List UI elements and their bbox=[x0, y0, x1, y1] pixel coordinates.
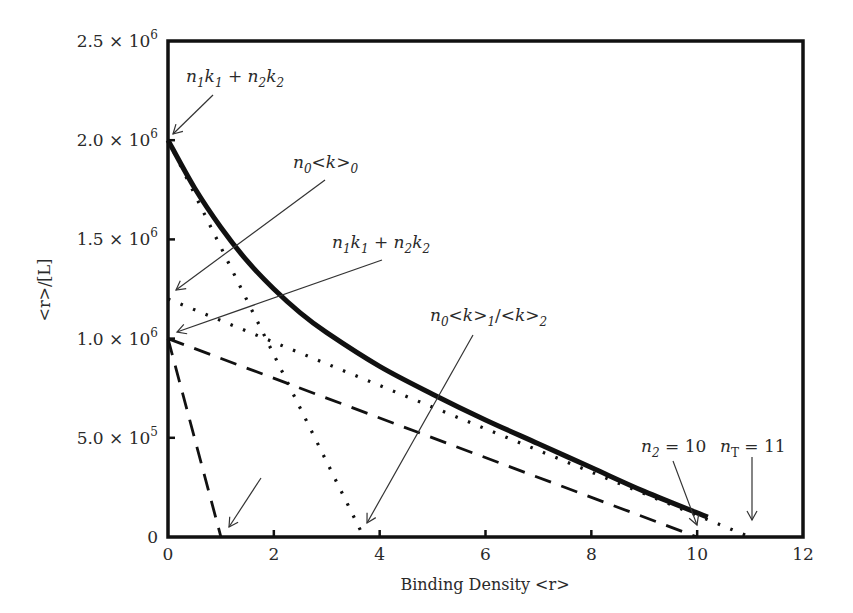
x-tick-label: 0 bbox=[163, 544, 174, 564]
series-line bbox=[168, 140, 708, 517]
annotation-label: n0<k>0 bbox=[293, 152, 358, 176]
plot-border bbox=[168, 41, 803, 537]
y-tick-label: 1.0 × 106 bbox=[77, 326, 158, 349]
y-tick-label: 5.0 × 105 bbox=[77, 425, 158, 448]
x-tick-label: 10 bbox=[686, 544, 708, 564]
annotation-label: n0<k>1/<k>2 bbox=[430, 305, 547, 329]
data-series bbox=[168, 140, 750, 537]
annotation-arrow bbox=[173, 95, 213, 134]
annotation-label: n2 = 10 bbox=[641, 436, 706, 460]
y-tick-label: 2.5 × 106 bbox=[77, 28, 158, 51]
annotation-label: nT = 11 bbox=[720, 436, 786, 460]
annotation-label: n1k1 + n2k2 bbox=[186, 66, 284, 90]
y-tick-label: 1.5 × 106 bbox=[77, 226, 158, 249]
scatchard-plot: 05.0 × 1051.0 × 1061.5 × 1062.0 × 1062.5… bbox=[0, 0, 853, 613]
annotation-arrow bbox=[673, 461, 697, 525]
x-axis: 024681012 bbox=[163, 530, 814, 564]
annotation-label: n1k1 + n2k2 bbox=[332, 232, 430, 256]
x-tick-label: 6 bbox=[480, 544, 491, 564]
x-tick-label: 8 bbox=[586, 544, 597, 564]
x-tick-label: 4 bbox=[374, 544, 385, 564]
x-tick-label: 12 bbox=[792, 544, 814, 564]
series-line bbox=[168, 339, 221, 537]
annotation-arrow bbox=[229, 478, 261, 527]
plot-frame bbox=[168, 41, 803, 537]
x-axis-title: Binding Density <r> bbox=[400, 575, 569, 594]
x-tick-label: 2 bbox=[268, 544, 279, 564]
y-axis-title: <r>/[L] bbox=[35, 259, 54, 322]
series-line bbox=[168, 339, 697, 537]
y-axis: 05.0 × 1051.0 × 1061.5 × 1062.0 × 1062.5… bbox=[77, 28, 175, 547]
annotation-arrow bbox=[367, 335, 473, 523]
y-tick-label: 0 bbox=[147, 527, 158, 547]
annotation-arrow bbox=[177, 260, 382, 332]
y-tick-label: 2.0 × 106 bbox=[77, 127, 158, 150]
annotations: n1k1 + n2k2n0<k>0n1k1 + n2k2n0<k>1/<k>2n… bbox=[173, 66, 786, 527]
